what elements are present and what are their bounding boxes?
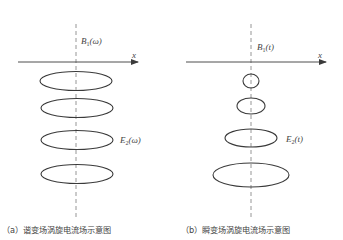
x-axis-label-b: x [318, 51, 322, 60]
eddy-loops-a [40, 72, 113, 184]
field-label-a: B1(ω) [81, 37, 102, 47]
eddy-loop [41, 165, 113, 184]
caption-a: （a）谐变场涡旋电流场示意图 [2, 226, 111, 234]
x-axis-label-a: x [132, 51, 136, 60]
caption-b: （b）瞬变场涡旋电流场示意图 [181, 226, 290, 234]
field-label-b: B1(t) [257, 43, 274, 53]
eddy-label-a: E2(ω) [120, 136, 141, 146]
diagram-canvas [0, 0, 343, 240]
eddy-loop [41, 131, 113, 150]
panel-a [18, 24, 138, 218]
eddy-loop [41, 99, 113, 118]
eddy-label-b: E2(t) [286, 135, 303, 145]
panel-b [186, 24, 326, 218]
